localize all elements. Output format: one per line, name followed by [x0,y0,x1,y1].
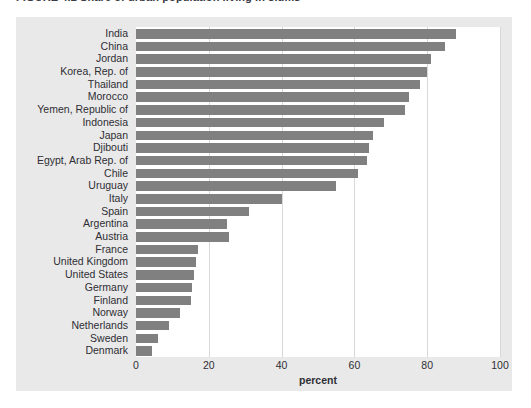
figure-container: FIGURE 4.2 Share of urban population liv… [0,0,531,408]
x-tick-label: 0 [133,359,139,371]
y-axis-label: United Kingdom [53,255,128,268]
bar [136,334,158,344]
bar-row [136,243,500,256]
y-axis-label: Norway [92,306,128,319]
y-axis-label: Spain [101,205,128,218]
bar [136,283,192,293]
y-axis-label: Denmark [85,344,128,357]
bar [136,54,431,64]
bar-row [136,103,500,116]
bar-row [136,52,500,65]
bar [136,257,196,267]
figure-title: FIGURE 4.2 Share of urban population liv… [16,0,301,3]
y-axis-label: China [101,40,128,53]
y-axis-label: Argentina [83,217,128,230]
x-tick-label: 100 [491,359,509,371]
bar-row [136,154,500,167]
bar-row [136,344,500,357]
bar-row [136,268,500,281]
y-axis-label: France [95,243,128,256]
figure-title-strip: FIGURE 4.2 Share of urban population liv… [0,0,531,11]
x-tick-label: 40 [276,359,288,371]
bar-row [136,294,500,307]
y-axis-label: India [105,27,128,40]
bar [136,194,282,204]
bar [136,67,427,77]
x-axis-title: percent [299,374,337,386]
bar-row [136,40,500,53]
bar [136,270,194,280]
bar-series [136,27,500,357]
bar [136,105,405,115]
bar [136,181,336,191]
bar [136,131,373,141]
bar-row [136,319,500,332]
y-axis-label: Yemen, Republic of [37,103,128,116]
bar-row [136,167,500,180]
y-axis-label: Jordan [96,52,128,65]
bar [136,232,229,242]
bar-row [136,205,500,218]
bar [136,245,198,255]
bar [136,321,169,331]
y-axis-labels: IndiaChinaJordanKorea, Rep. ofThailandMo… [16,27,133,357]
bar [136,80,420,90]
bar-row [136,192,500,205]
plot-area [136,27,500,357]
bar-row [136,281,500,294]
y-axis-label: Japan [99,129,128,142]
x-tick-label: 80 [421,359,433,371]
bar-row [136,306,500,319]
y-axis-label: Finland [94,294,128,307]
y-axis-label: Sweden [90,332,128,345]
bar [136,346,152,356]
bar [136,42,445,52]
bar-row [136,255,500,268]
bar-row [136,217,500,230]
bar [136,296,191,306]
y-axis-label: United States [65,268,128,281]
bar [136,308,180,318]
y-axis-label: Indonesia [82,116,128,129]
bar-row [136,332,500,345]
bar [136,92,409,102]
bar-row [136,27,500,40]
y-axis-label: Korea, Rep. of [60,65,128,78]
x-tick-label: 20 [203,359,215,371]
y-axis-label: Egypt, Arab Rep. of [37,154,128,167]
bar [136,169,358,179]
y-axis-label: Netherlands [71,319,128,332]
bar-row [136,90,500,103]
bar-row [136,78,500,91]
bar [136,118,384,128]
y-axis-label: Austria [95,230,128,243]
bar-row [136,129,500,142]
x-tick-label: 60 [349,359,361,371]
x-axis: 020406080100 percent [136,357,500,391]
bar [136,29,456,39]
y-axis-label: Djibouti [93,141,128,154]
y-axis-label: Chile [104,167,128,180]
y-axis-label: Morocco [88,90,128,103]
bar [136,143,369,153]
bar-row [136,230,500,243]
y-axis-label: Germany [85,281,128,294]
bar-row [136,141,500,154]
bar-row [136,179,500,192]
chart-panel: IndiaChinaJordanKorea, Rep. ofThailandMo… [16,17,512,391]
bar [136,219,227,229]
bar [136,156,367,166]
bar [136,207,249,217]
y-axis-label: Italy [109,192,128,205]
bar-row [136,65,500,78]
y-axis-label: Uruguay [88,179,128,192]
y-axis-label: Thailand [88,78,128,91]
bar-row [136,116,500,129]
gridline-100 [500,27,501,357]
